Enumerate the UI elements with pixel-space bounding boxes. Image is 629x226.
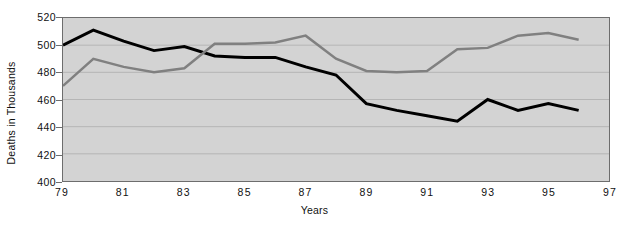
x-tick-label: 81 — [116, 186, 130, 198]
y-tick-label: 500 — [22, 39, 56, 51]
y-tick-mark — [56, 182, 62, 183]
y-tick-mark — [56, 45, 62, 46]
x-tick-label: 91 — [420, 186, 434, 198]
y-tick-label: 460 — [22, 94, 56, 106]
plot-area — [62, 17, 610, 182]
line-chart-figure: Deaths in Thousands 40042044046048050052… — [0, 0, 629, 226]
series-layer — [63, 30, 579, 121]
y-tick-label: 440 — [22, 121, 56, 133]
y-tick-mark — [56, 155, 62, 156]
line-series-gray — [63, 33, 579, 86]
y-tick-label: 520 — [22, 11, 56, 23]
y-tick-mark — [56, 127, 62, 128]
x-tick-label: 93 — [481, 186, 495, 198]
x-tick-label: 89 — [359, 186, 373, 198]
y-tick-mark — [56, 17, 62, 18]
x-tick-label: 87 — [299, 186, 313, 198]
line-series-black — [63, 30, 579, 121]
x-tick-label: 83 — [177, 186, 191, 198]
y-tick-label: 420 — [22, 149, 56, 161]
gridlines — [63, 45, 609, 154]
y-tick-mark — [56, 72, 62, 73]
x-axis-title: Years — [0, 204, 629, 216]
x-tick-label: 95 — [542, 186, 556, 198]
x-tick-label: 85 — [238, 186, 252, 198]
x-axis-tick-labels: 79818385878991939597 — [0, 186, 629, 202]
x-tick-label: 79 — [55, 186, 69, 198]
x-tick-label: 97 — [603, 186, 617, 198]
y-tick-mark — [56, 100, 62, 101]
plot-svg — [63, 18, 609, 181]
y-tick-label: 480 — [22, 66, 56, 78]
